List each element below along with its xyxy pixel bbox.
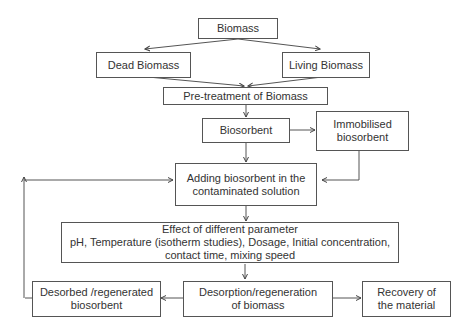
- node-desorbed-biosorbent: Desorbed /regenerated biosorbent: [32, 281, 161, 317]
- node-label-line-1: Desorbed /regenerated: [40, 286, 153, 299]
- node-label-line-2: of biomass: [231, 299, 284, 312]
- node-label-line-2: biosorbent: [71, 299, 122, 312]
- node-living-biomass: Living Biomass: [282, 52, 370, 78]
- node-biosorbent: Biosorbent: [202, 118, 290, 143]
- arrow-biomass-to-dead: [145, 39, 238, 49]
- node-adding-biosorbent: Adding biosorbent in the contaminated so…: [175, 163, 317, 206]
- arrow-living-to-pretreatment: [248, 77, 322, 86]
- node-label-line-2: biosorbent: [337, 131, 388, 144]
- node-label: Pre-treatment of Biomass: [183, 90, 308, 103]
- node-effect-parameters: Effect of different parameter pH, Temper…: [61, 222, 399, 263]
- node-label-line-1: Immobilised: [333, 118, 392, 131]
- node-pretreatment: Pre-treatment of Biomass: [163, 87, 328, 105]
- arrow-immobilised-to-adding: [322, 151, 359, 180]
- node-label-line-2: contaminated solution: [192, 185, 299, 198]
- node-desorption-regeneration: Desorption/regeneration of biomass: [183, 281, 333, 317]
- node-label-line-1: Effect of different parameter: [162, 223, 298, 236]
- node-label-line-3: contact time, mixing speed: [165, 249, 295, 262]
- node-recovery-material: Recovery of the material: [362, 281, 451, 317]
- arrow-dead-to-pretreatment: [148, 77, 244, 86]
- node-label: Living Biomass: [289, 59, 363, 72]
- node-biomass: Biomass: [198, 18, 278, 39]
- node-immobilised-biosorbent: Immobilised biosorbent: [316, 111, 409, 151]
- arrow-biomass-to-living: [238, 39, 320, 49]
- node-label-line-1: Desorption/regeneration: [199, 286, 317, 299]
- node-label: Dead Biomass: [108, 59, 180, 72]
- node-dead-biomass: Dead Biomass: [96, 52, 191, 78]
- node-label: Biomass: [217, 22, 259, 35]
- node-label-line-1: Recovery of: [377, 286, 436, 299]
- node-label: Biosorbent: [220, 124, 273, 137]
- node-label-line-2: the material: [378, 299, 435, 312]
- node-label-line-1: Adding biosorbent in the: [187, 172, 306, 185]
- node-label-line-2: pH, Temperature (isotherm studies), Dosa…: [70, 236, 390, 249]
